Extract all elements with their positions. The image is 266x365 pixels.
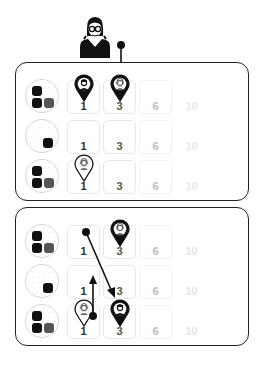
arrow-diagonal-panel2 (0, 0, 266, 365)
